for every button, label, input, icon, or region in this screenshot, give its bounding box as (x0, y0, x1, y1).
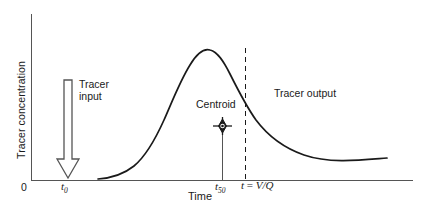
tracer-input-label-line1: Tracer (79, 78, 109, 90)
tracer-input-arrow-icon (57, 80, 79, 178)
tracer-input-label-line2: input (79, 90, 109, 102)
t50-subscript: 50 (218, 186, 226, 195)
t50-tick-label: t50 (215, 180, 226, 195)
tracer-input-label: Tracer input (79, 78, 109, 102)
axis-origin-label: 0 (21, 181, 27, 193)
tracer-output-curve (98, 50, 387, 179)
t0-subscript: 0 (64, 186, 68, 195)
residence-time-value: V/Q (256, 179, 274, 191)
centroid-marker-icon (213, 117, 232, 135)
t0-tick-label: t0 (61, 180, 68, 195)
tracer-concentration-figure: Tracer concentration Time 0 Tracer input… (0, 0, 421, 212)
residence-time-equals: = (244, 179, 256, 191)
mean-residence-time-label: t = V/Q (241, 179, 274, 191)
x-axis-title: Time (188, 190, 212, 203)
y-axis-title: Tracer concentration (15, 25, 29, 195)
centroid-label: Centroid (196, 98, 236, 110)
tracer-output-label: Tracer output (274, 87, 336, 99)
